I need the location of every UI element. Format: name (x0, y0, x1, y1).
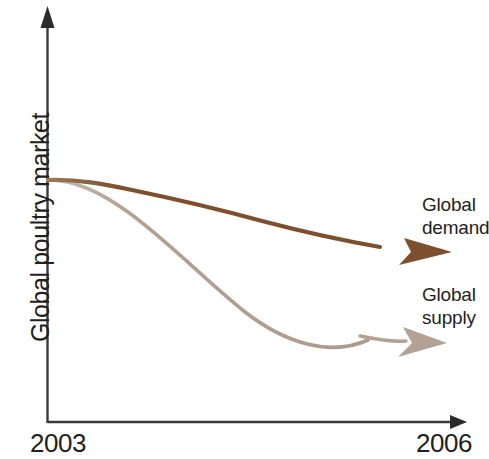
series-label-global-demand: Global demand (422, 193, 489, 239)
series-line-global-supply (48, 180, 447, 357)
x-axis-tick-label-start: 2003 (30, 430, 86, 456)
x-axis (48, 415, 468, 429)
x-axis-tick-label-end: 2006 (416, 430, 472, 456)
y-axis-title: Global poultry market (28, 103, 53, 353)
x-axis-arrowhead-icon (450, 415, 467, 429)
y-axis-title-text: Global poultry market (26, 113, 54, 342)
global-demand-arrowhead-icon (399, 238, 452, 265)
series-line-global-demand (48, 180, 452, 265)
series-label-global-supply: Global supply (422, 283, 476, 329)
y-axis-arrowhead-icon (41, 6, 55, 28)
global-demand-path (48, 180, 380, 247)
